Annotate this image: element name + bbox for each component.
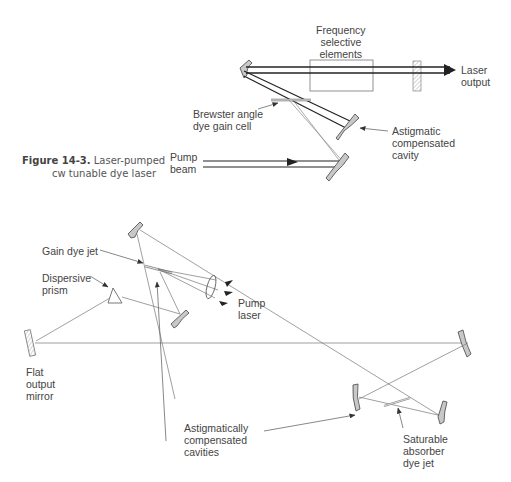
saturable-left-mirror	[353, 384, 360, 411]
lower-fold-mirror	[171, 310, 189, 328]
flat-output-mirror	[24, 330, 35, 357]
label-saturable-absorber: Saturable absorber dye jet	[403, 433, 448, 469]
dispersive-prism	[108, 288, 122, 303]
label-pump-laser: Pump laser	[238, 297, 265, 321]
figure-caption: Figure 14-3. Laser-pumped cw tunable dye…	[22, 154, 156, 180]
right-cavity-mirror	[458, 330, 471, 357]
label-gain-dye-jet: Gain dye jet	[42, 245, 98, 257]
label-flat-output-mirror: Flat output mirror	[26, 366, 55, 402]
label-frequency-selective: Frequency selective elements	[316, 24, 366, 60]
astigmatic-mirror	[336, 114, 359, 140]
upper-fold-mirror	[128, 222, 143, 238]
etalon	[413, 61, 421, 91]
caption-line-2: cw tunable dye laser	[22, 167, 156, 180]
label-laser-output: Laser output	[461, 64, 490, 88]
label-astigmatic-cavity: Astigmatic compensated cavity	[392, 125, 455, 161]
frequency-selective-box	[310, 60, 373, 91]
caption-line-1: Laser-pumped	[94, 155, 165, 166]
label-dispersive-prism: Dispersive prism	[42, 272, 91, 296]
label-brewster-cell: Brewster angle dye gain cell	[193, 108, 263, 132]
label-pump-beam: Pump beam	[170, 151, 197, 175]
optics-diagram	[0, 0, 511, 482]
figure-number: Figure 14-3.	[22, 155, 91, 166]
label-astigmatically-compensated: Astigmatically compensated cavities	[184, 422, 248, 458]
saturable-right-mirror	[438, 401, 447, 424]
top-left-mirror	[240, 60, 252, 78]
